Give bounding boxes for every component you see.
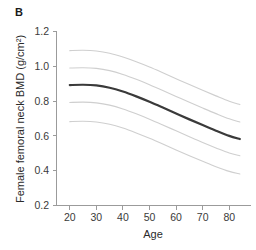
y-tick-label: 0.4 bbox=[34, 164, 49, 176]
x-tick-label: 50 bbox=[144, 211, 156, 223]
y-tick-label: 0.6 bbox=[34, 130, 49, 142]
axes bbox=[57, 32, 251, 206]
x-tick-label: 20 bbox=[64, 211, 76, 223]
x-tick-label: 70 bbox=[197, 211, 209, 223]
curve-mean bbox=[70, 85, 240, 139]
x-axis-title: Age bbox=[143, 228, 163, 240]
x-axis-ticks: 20304050607080 bbox=[64, 206, 235, 224]
y-tick-label: 0.8 bbox=[34, 95, 49, 107]
x-tick-label: 60 bbox=[170, 211, 182, 223]
bmd-vs-age-chart: 0.20.40.60.81.01.2 20304050607080 Age Fe… bbox=[0, 0, 256, 250]
y-tick-label: 1.0 bbox=[34, 60, 49, 72]
curve-percentile-0 bbox=[70, 50, 240, 104]
y-axis-ticks: 0.20.40.60.81.01.2 bbox=[34, 25, 56, 211]
y-axis-title: Female femoral neck BMD (g/cm²) bbox=[14, 35, 26, 203]
x-tick-label: 40 bbox=[117, 211, 129, 223]
y-tick-label: 0.2 bbox=[34, 199, 49, 211]
figure-panel: B 0.20.40.60.81.01.2 20304050607080 Age … bbox=[0, 0, 256, 250]
y-tick-label: 1.2 bbox=[34, 25, 49, 37]
chart-curves bbox=[70, 50, 240, 174]
x-tick-label: 80 bbox=[223, 211, 235, 223]
x-tick-label: 30 bbox=[91, 211, 103, 223]
